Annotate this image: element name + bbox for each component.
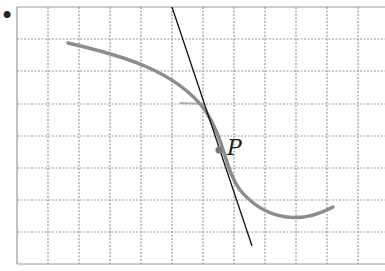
curve	[68, 43, 333, 217]
tangent-diagram	[0, 0, 385, 271]
bullet-marker: •	[0, 2, 14, 30]
point-p-label: P	[227, 135, 242, 160]
tangent-line	[172, 7, 252, 246]
point-p	[216, 147, 223, 154]
